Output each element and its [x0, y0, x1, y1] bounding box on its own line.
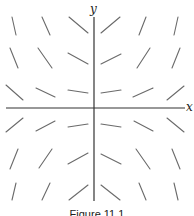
slope-segment	[101, 185, 120, 200]
slope-segment	[167, 118, 184, 132]
slope-segment	[68, 153, 88, 164]
slope-segment	[36, 121, 55, 131]
slope-segment	[139, 183, 146, 200]
slope-segment	[6, 118, 23, 132]
direction-field-figure: x y	[0, 0, 194, 216]
slope-segment	[69, 185, 88, 200]
slope-segment	[137, 48, 150, 68]
slope-segment	[12, 183, 16, 200]
slope-segment	[172, 149, 180, 169]
slope-segment	[10, 149, 18, 169]
x-axis-label: x	[186, 100, 193, 114]
slope-segment	[42, 17, 50, 35]
slope-segment	[68, 124, 88, 127]
slope-segment	[101, 17, 120, 33]
slope-segment	[10, 48, 18, 68]
slope-segment	[167, 86, 184, 100]
slope-segment	[6, 85, 23, 100]
slope-segment	[101, 90, 121, 93]
slope-segment	[68, 90, 88, 93]
slope-segment	[174, 183, 178, 200]
slope-segment	[101, 124, 121, 127]
slope-segment	[134, 121, 153, 131]
slope-segment	[133, 88, 153, 97]
slope-segment	[42, 183, 50, 200]
slope-segment	[172, 48, 180, 68]
slope-segment	[38, 48, 52, 68]
slope-segment	[174, 17, 178, 35]
slope-segment	[69, 17, 88, 33]
slope-segment	[139, 17, 146, 35]
slope-segment	[101, 54, 121, 64]
slope-segment	[101, 154, 121, 164]
slope-segment	[12, 17, 16, 35]
slope-segment	[68, 53, 88, 64]
slope-segment	[136, 149, 150, 169]
y-axis-label: y	[89, 2, 97, 16]
figure-caption: Figure 11.1	[0, 208, 194, 216]
slope-segment	[39, 149, 52, 168]
slope-segment	[36, 88, 55, 97]
